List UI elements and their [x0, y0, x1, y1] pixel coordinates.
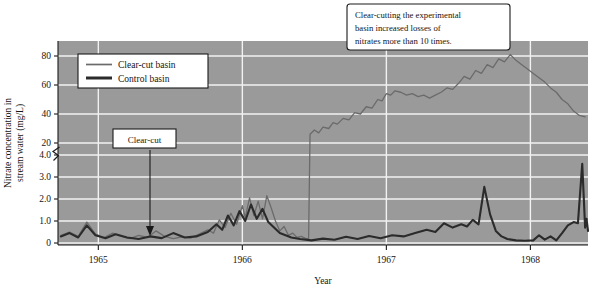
- legend-label-control-basin: Control basin: [118, 74, 170, 84]
- y-tick-label: 40: [42, 109, 52, 119]
- y-tick-label: 0: [46, 238, 51, 248]
- y-tick-label: 20: [42, 138, 52, 148]
- y-tick-label: 4.0: [39, 150, 51, 160]
- chart-svg: 01.02.03.04.020406080 1965196619671968 Y…: [0, 0, 594, 292]
- conclusion-callout-line-2: basin increased losses of: [355, 23, 441, 33]
- conclusion-callout-line-1: Clear-cutting the experimental: [355, 10, 462, 20]
- legend-label-clear-cut-basin: Clear-cut basin: [118, 60, 176, 70]
- x-axis-title: Year: [314, 276, 332, 286]
- y-tick-label: 60: [42, 80, 52, 90]
- x-tick-label: 1965: [89, 255, 108, 265]
- nitrate-concentration-chart: 01.02.03.04.020406080 1965196619671968 Y…: [0, 0, 594, 292]
- x-tick-label: 1967: [377, 255, 396, 265]
- conclusion-callout-line-3: nitrates more than 10 times.: [355, 36, 452, 46]
- x-axis-ticks: 1965196619671968: [89, 245, 540, 265]
- legend: Clear-cut basin Control basin: [78, 54, 208, 88]
- y-axis-title: Nitrate concentration in stream water (m…: [3, 98, 26, 188]
- y-tick-label: 2.0: [39, 194, 51, 204]
- clear-cut-annotation-label: Clear-cut: [128, 135, 162, 145]
- y-axis-break-icon: [53, 147, 61, 161]
- conclusion-callout: Clear-cutting the experimental basin inc…: [347, 4, 510, 50]
- y-tick-label: 3.0: [39, 172, 51, 182]
- x-tick-label: 1966: [233, 255, 252, 265]
- y-tick-label: 1.0: [39, 216, 51, 226]
- x-tick-label: 1968: [521, 255, 540, 265]
- y-axis-title-line1: Nitrate concentration in: [3, 98, 13, 188]
- y-tick-label: 80: [42, 51, 52, 61]
- y-axis-title-line2: stream water (mg/L): [15, 104, 26, 182]
